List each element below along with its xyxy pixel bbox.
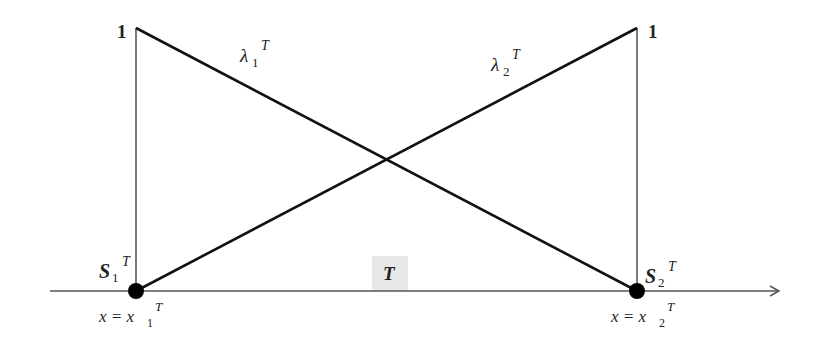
svg-text:2: 2 [503, 64, 510, 79]
node-s1-coordinate: x = x 1 T [98, 299, 163, 330]
svg-text:x = x: x = x [98, 307, 135, 326]
top-label-right: 1 [648, 21, 658, 42]
svg-text:1: 1 [252, 55, 259, 70]
node-s2-coordinate: x = x 2 T [610, 299, 675, 330]
svg-text:T: T [512, 47, 521, 62]
svg-text:1: 1 [147, 316, 153, 330]
svg-text:λ: λ [239, 45, 248, 66]
svg-text:λ: λ [490, 54, 499, 75]
top-label-left: 1 [117, 21, 127, 42]
svg-text:2: 2 [658, 275, 665, 290]
shape-function-diagram: 1 1 λ 1 T λ 2 T S 1 T S 2 T T x = x 1 T … [0, 0, 819, 352]
svg-text:2: 2 [659, 316, 665, 330]
svg-text:S: S [645, 265, 656, 287]
svg-text:x = x: x = x [610, 307, 647, 326]
node-s2-label: S 2 T [645, 259, 677, 290]
svg-text:T: T [668, 259, 677, 274]
node-s2 [629, 283, 645, 299]
lambda2-label: λ 2 T [490, 47, 521, 79]
svg-text:1: 1 [112, 270, 119, 285]
element-label: T [383, 263, 396, 284]
lambda1-label: λ 1 T [239, 38, 270, 70]
node-s1-label: S 1 T [99, 254, 131, 285]
svg-text:T: T [155, 299, 163, 314]
svg-text:T: T [261, 38, 270, 53]
svg-text:T: T [122, 254, 131, 269]
svg-text:S: S [99, 260, 110, 282]
svg-text:T: T [667, 299, 675, 314]
node-s1 [128, 283, 144, 299]
